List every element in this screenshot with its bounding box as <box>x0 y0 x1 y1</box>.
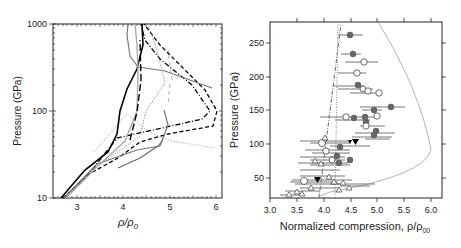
right-ytick-150: 150 <box>249 105 264 115</box>
right-xtick-5.0: 5.0 <box>371 205 384 215</box>
right-xtick-5.5: 5.5 <box>398 205 411 215</box>
marker-open-circle <box>363 123 369 129</box>
curve-gray-dotted <box>64 24 165 198</box>
left-xtick-5: 5 <box>167 202 172 212</box>
left-x-label-sub: 0 <box>134 222 139 231</box>
marker-filled-circle <box>337 144 343 150</box>
left-ytick-10: 10 <box>37 193 47 203</box>
right-xtick-3.0: 3.0 <box>264 205 277 215</box>
marker-open-circle <box>319 140 326 147</box>
right-axes-frame <box>270 22 442 198</box>
marker-filled-circle <box>347 157 353 163</box>
left-ytick-1000: 1000 <box>27 19 47 29</box>
right-ytick-100: 100 <box>249 139 264 149</box>
marker-filled-circle <box>371 107 377 113</box>
marker-open-triangle <box>322 135 328 140</box>
marker-filled-circle <box>388 104 394 110</box>
right-xtick-6.0: 6.0 <box>425 205 438 215</box>
right-xtick-4.0: 4.0 <box>318 205 331 215</box>
right-x-label-sub: 00 <box>422 227 430 234</box>
marker-open-circle <box>343 114 349 120</box>
marker-open-circle <box>329 157 335 163</box>
marker-filled-circle <box>371 132 377 138</box>
left-y-axis-label: Pressure (GPa) <box>12 76 23 145</box>
curve-solid-black <box>61 24 143 198</box>
left-xtick-3: 3 <box>74 202 79 212</box>
right-ticks <box>266 18 446 202</box>
right-xtick-3.5: 3.5 <box>291 205 304 215</box>
right-ytick-250: 250 <box>249 38 264 48</box>
marker-filled-circle <box>351 115 357 121</box>
right-x-axis-label: Normalized compression, ρ/ρ00 <box>280 220 431 234</box>
marker-open-circle <box>354 70 360 76</box>
left-plot: 1000 100 10 3 4 5 6 Pressure (GPa) ρ/ρ0 <box>12 19 222 231</box>
data-markers <box>286 32 394 197</box>
right-x-label-main: Normalized compression, ρ/ρ <box>280 220 423 232</box>
marker-filled-circle <box>350 51 356 57</box>
right-ytick-50: 50 <box>254 173 264 183</box>
marker-open-triangle <box>340 180 346 185</box>
left-xtick-4: 4 <box>120 202 125 212</box>
marker-open-circle <box>323 148 329 154</box>
left-xtick-6: 6 <box>213 202 218 212</box>
left-ytick-100: 100 <box>32 106 47 116</box>
left-x-label-main: ρ/ρ <box>117 216 134 228</box>
marker-open-circle <box>361 59 367 65</box>
left-y-ticks <box>49 24 222 198</box>
right-xtick-4.5: 4.5 <box>345 205 358 215</box>
right-ytick-200: 200 <box>249 72 264 82</box>
curve-light-dashed <box>168 50 172 105</box>
left-x-axis-label: ρ/ρ0 <box>117 216 139 231</box>
marker-open-circle <box>374 113 380 119</box>
marker-filled-triangle <box>352 139 359 145</box>
figure: 1000 100 10 3 4 5 6 Pressure (GPa) ρ/ρ0 <box>0 0 461 248</box>
marker-filled-circle <box>347 32 353 38</box>
right-y-axis-label: Pressure (GPa) <box>228 72 240 148</box>
curve-light-gray-solid <box>66 24 138 198</box>
right-plot: 250 200 150 100 50 3.0 3.5 4.0 4.5 5.0 5… <box>228 18 446 234</box>
marker-open-circle <box>365 88 371 94</box>
marker-open-circle <box>301 178 308 185</box>
marker-filled-circle <box>336 160 342 166</box>
error-bars <box>280 35 405 195</box>
left-curves <box>61 24 217 198</box>
marker-open-circle <box>376 90 382 96</box>
dotted-line <box>335 24 338 198</box>
